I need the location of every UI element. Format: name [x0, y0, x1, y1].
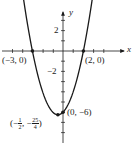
y-intercept-label: (0, −6) [67, 108, 92, 117]
point-root-right [82, 49, 86, 53]
vertex-y-fraction: 254 [32, 117, 39, 130]
point-y-intercept [61, 110, 65, 114]
point-vertex [56, 113, 60, 117]
y-tick-label-neg2: −2 [47, 67, 57, 76]
y-tick-label-2: 2 [54, 26, 59, 35]
root-left-label: (−3, 0) [2, 56, 27, 65]
root-right-label: (2, 0) [85, 56, 105, 65]
vertex-label: (−12, −254) [10, 117, 42, 130]
point-root-left [31, 49, 35, 53]
y-axis-label: y [69, 8, 73, 17]
x-axis-label: x [127, 45, 131, 54]
